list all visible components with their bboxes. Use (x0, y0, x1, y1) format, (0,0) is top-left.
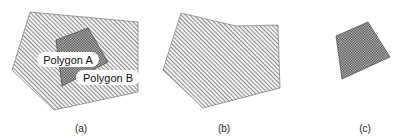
caption-a: (a) (75, 123, 87, 134)
polygon-a-label-text: Polygon A (43, 54, 93, 66)
polygon-b-label-text: Polygon B (83, 72, 133, 84)
caption-b: (b) (218, 123, 230, 134)
panel-b: (b) (163, 13, 280, 134)
union-polygon-shape (163, 13, 280, 108)
panel-c: (c) (336, 22, 390, 134)
polygon-a-label: Polygon A (37, 52, 99, 67)
polygon-b-label: Polygon B (76, 70, 140, 85)
intersection-polygon-shape (336, 22, 390, 79)
polygon-figure: Polygon A Polygon B (a) (b) (c) (0, 0, 402, 140)
caption-c: (c) (359, 123, 371, 134)
panel-a: Polygon A Polygon B (a) (12, 12, 140, 134)
